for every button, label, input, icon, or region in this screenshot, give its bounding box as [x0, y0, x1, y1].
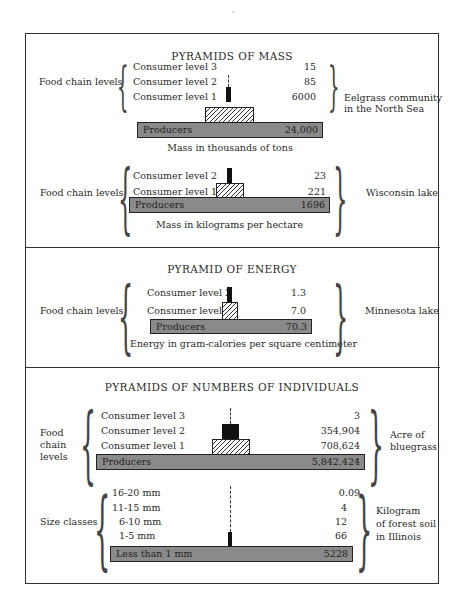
- consumer3-bar: [228, 75, 229, 87]
- side-label: chain: [40, 439, 66, 450]
- section-divider: [25, 247, 440, 248]
- level-value: 1.3: [266, 287, 306, 298]
- location-label: in Illinois: [376, 531, 421, 542]
- side-label: Food chain levels: [40, 305, 123, 316]
- level-label: Consumer level 2: [147, 287, 231, 298]
- page-mark: ': [232, 10, 234, 20]
- level-value: 85: [276, 76, 316, 87]
- level-value: 12: [300, 516, 347, 527]
- level-value: 7.0: [266, 305, 306, 316]
- level-value: 221: [286, 186, 326, 197]
- side-label: Size classes: [40, 516, 97, 527]
- level-label: Consumer level 1: [101, 440, 185, 451]
- section-title-numbers: PYRAMIDS OF NUMBERS OF INDIVIDUALS: [0, 381, 464, 393]
- producers-label: Producers: [135, 199, 184, 210]
- right-brace: }: [356, 486, 372, 572]
- location-label: in the North Sea: [344, 103, 424, 114]
- level-value: 3: [300, 410, 360, 421]
- caption: Energy in gram-calories per square centi…: [130, 338, 330, 349]
- side-label: Food: [40, 427, 64, 438]
- consumer1-bar: [212, 439, 250, 455]
- producers-label: Producers: [156, 321, 205, 332]
- producers-label: Producers: [143, 124, 192, 135]
- section-title-mass: PYRAMIDS OF MASS: [0, 50, 464, 62]
- consumer1-bar: [205, 107, 254, 123]
- level-value: 15: [276, 61, 316, 72]
- right-brace: }: [333, 277, 348, 357]
- size-class-bars-dashed: [230, 486, 231, 532]
- consumer1-bar: [216, 183, 244, 198]
- level-label: Consumer level 3: [133, 61, 217, 72]
- location-label: of forest soil: [376, 518, 436, 529]
- left-brace: {: [94, 486, 110, 572]
- size-1-5mm-bar: [228, 532, 232, 546]
- size-class-label: 16-20 mm: [112, 487, 160, 498]
- level-label: Consumer level 2: [133, 76, 217, 87]
- location-label: Acre of: [390, 429, 425, 440]
- side-label: Food chain levels: [39, 76, 122, 87]
- producers-value: 24,000: [285, 124, 318, 135]
- producers-bar: Producers 1696: [129, 197, 330, 213]
- level-label: Consumer level 2: [101, 425, 185, 436]
- consumer2-bar: [227, 168, 232, 183]
- consumer2-bar: [226, 87, 231, 102]
- producers-value: 5,842,424: [312, 456, 360, 467]
- location-label: Wisconsin lake: [366, 187, 438, 198]
- level-label: Consumer level 1: [147, 305, 231, 316]
- producers-bar: Producers 24,000: [137, 122, 323, 138]
- consumer1-bar: [222, 302, 238, 320]
- side-label: levels: [40, 451, 68, 462]
- level-label: Consumer level 1: [133, 186, 217, 197]
- consumer3-bar: [230, 408, 231, 424]
- smallest-size-label: Less than 1 mm: [116, 548, 193, 559]
- right-brace: }: [333, 160, 348, 236]
- level-value: 708,624: [300, 440, 360, 451]
- level-value: 66: [300, 530, 347, 541]
- level-value: 4: [300, 502, 347, 513]
- producers-bar: Producers 5,842,424: [96, 454, 365, 470]
- level-label: Consumer level 2: [133, 170, 217, 181]
- side-label: Food chain levels: [40, 187, 123, 198]
- smallest-size-bar: Less than 1 mm 5228: [110, 546, 353, 562]
- section-title-energy: PYRAMID OF ENERGY: [0, 263, 464, 275]
- location-label: bluegrass: [390, 441, 437, 452]
- caption: Mass in kilograms per hectare: [129, 219, 330, 230]
- left-brace: {: [80, 402, 96, 486]
- level-label: Consumer level 1: [133, 91, 217, 102]
- right-brace: }: [368, 402, 384, 486]
- producers-bar: Producers 70.3: [150, 319, 312, 334]
- level-value: 354,904: [300, 425, 360, 436]
- producers-value: 70.3: [286, 321, 307, 332]
- size-class-label: 11-15 mm: [112, 502, 160, 513]
- smallest-size-value: 5228: [324, 548, 348, 559]
- right-brace: }: [328, 60, 340, 112]
- level-value: 6000: [276, 91, 316, 102]
- producers-label: Producers: [102, 456, 151, 467]
- section-divider: [25, 367, 440, 368]
- location-label: Kilogram: [376, 505, 420, 516]
- size-class-label: 6-10 mm: [119, 516, 161, 527]
- location-label: Minnesota lake: [365, 305, 439, 316]
- level-label: Consumer level 3: [101, 410, 185, 421]
- left-brace: {: [117, 60, 129, 112]
- consumer2-bar: [222, 424, 239, 439]
- level-value: 23: [286, 170, 326, 181]
- caption: Mass in thousands of tons: [137, 142, 323, 153]
- size-class-label: 1-5 mm: [119, 530, 155, 541]
- level-value: 0.09: [300, 487, 360, 498]
- producers-value: 1696: [301, 199, 325, 210]
- location-label: Eelgrass community: [344, 92, 442, 103]
